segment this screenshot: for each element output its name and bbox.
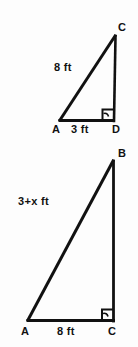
lower-base-label: 8 ft [57, 326, 75, 337]
upper-triangle-vertical-segment [114, 36, 116, 121]
upper-triangle-shape [60, 36, 116, 121]
upper-vertex-label-c: C [118, 22, 126, 33]
lower-hypotenuse-label: 3+x ft [18, 196, 49, 207]
upper-right-angle-arc [104, 113, 109, 116]
lower-vertex-label-a: A [21, 326, 29, 337]
lower-vertex-label-c: C [108, 326, 116, 337]
upper-triangle-hypotenuse-segment [60, 36, 115, 120]
figure-drawing [0, 0, 138, 347]
lower-triangle-shape [28, 161, 114, 321]
upper-vertex-label-d: D [112, 124, 120, 135]
lower-right-angle-arc [103, 313, 108, 316]
upper-vertex-label-a: A [52, 124, 60, 135]
upper-hypotenuse-label: 8 ft [54, 62, 72, 73]
lower-vertex-label-b: B [118, 148, 126, 159]
upper-base-label: 3 ft [71, 124, 89, 135]
geometry-figure: C 8 ft A 3 ft D B 3+x ft A 8 ft C [0, 0, 138, 347]
lower-triangle-hypotenuse-segment [28, 161, 113, 320]
